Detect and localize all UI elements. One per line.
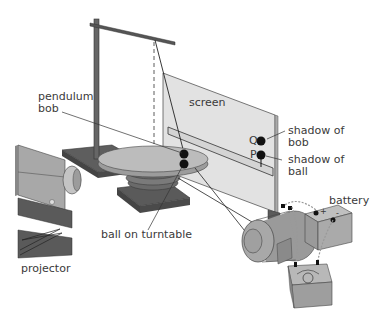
variable-resistor [288,260,332,308]
retort-stand [90,19,175,159]
label-screen: screen [189,97,226,109]
label-battery-minus: - [336,208,339,220]
projector [15,145,81,258]
label-pendulum-bob: pendulum bob [38,91,93,115]
label-shadow-of-ball-line2: ball [288,166,344,178]
label-ball-on-turntable: ball on turntable [101,229,192,241]
label-shadow-of-bob-line2: bob [288,137,344,149]
label-shadow-of-bob: shadow of bob [288,125,344,149]
label-pendulum-bob-line2: bob [38,103,93,115]
label-q: Q [249,135,258,147]
label-shadow-of-ball: shadow of ball [288,154,344,178]
ball-on-turntable [180,160,189,169]
turntable [98,146,208,177]
label-battery: battery [329,195,369,207]
label-p: P [250,149,257,161]
label-battery-plus: + [320,206,327,218]
label-projector: projector [21,263,70,275]
pendulum-bob [180,150,189,159]
